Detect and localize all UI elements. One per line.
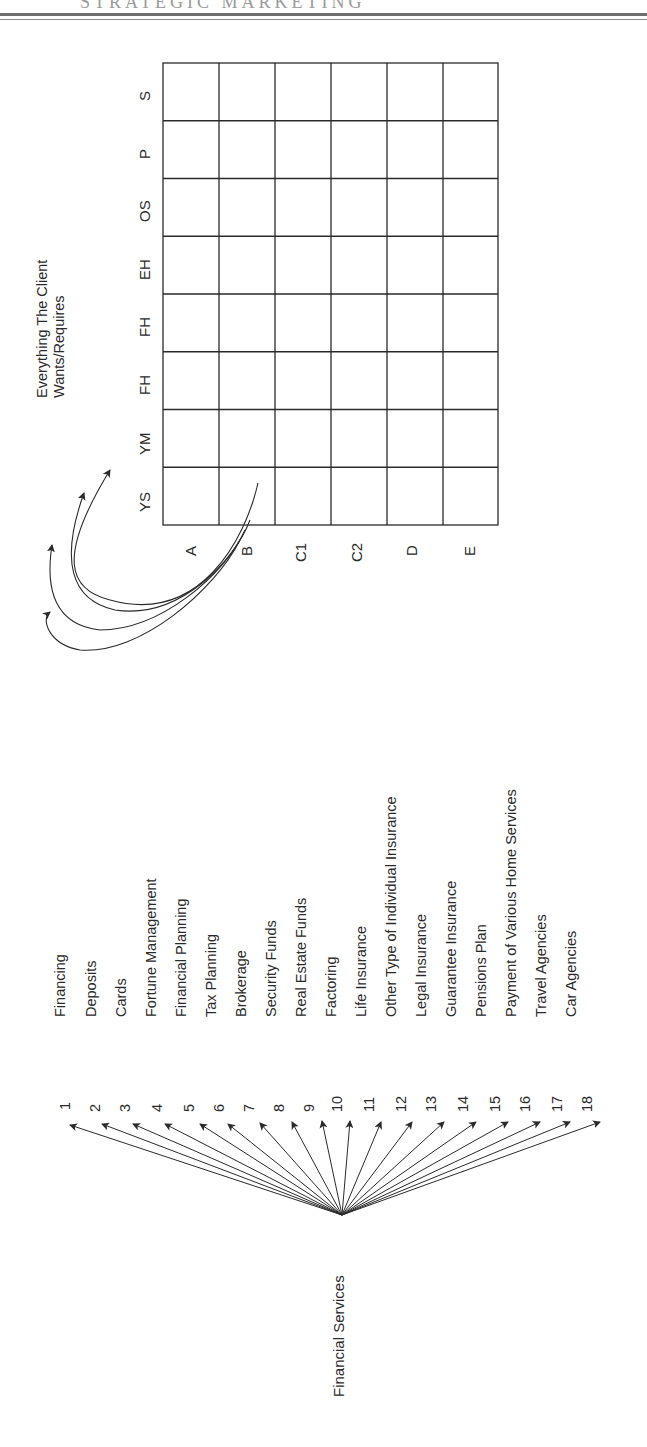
col-label-b: B <box>239 546 254 556</box>
col-label-c2: C2 <box>349 543 364 562</box>
service-label-12: Other Type of Individual Insurance <box>384 796 399 1017</box>
caption-line-2: Wants/Requires <box>51 260 68 398</box>
service-label-7: Brokerage <box>234 950 249 1017</box>
service-label-11: Life Insurance <box>354 926 369 1017</box>
service-label-16: Payment of Various Home Services <box>504 789 519 1017</box>
row-label-os: OS <box>137 200 152 222</box>
diagram-lines <box>0 0 647 1447</box>
service-number-4: 4 <box>150 1104 165 1112</box>
row-label-ym: YM <box>137 433 152 456</box>
service-label-9: Real Estate Funds <box>294 898 309 1017</box>
financial-services-root-label: Financial Services <box>331 1275 346 1397</box>
service-label-18: Car Agencies <box>564 931 579 1017</box>
service-number-9: 9 <box>302 1104 317 1112</box>
col-label-c1: C1 <box>293 543 308 562</box>
service-number-1: 1 <box>58 1102 73 1110</box>
service-number-6: 6 <box>212 1104 227 1112</box>
service-label-5: Financial Planning <box>174 899 189 1018</box>
matrix-caption: Everything The Client Wants/Requires <box>34 260 68 398</box>
service-number-15: 15 <box>488 1096 503 1112</box>
col-label-a: A <box>183 546 198 556</box>
row-label-eh: EH <box>137 259 152 280</box>
service-label-4: Fortune Management <box>144 878 159 1017</box>
service-label-17: Travel Agencies <box>534 914 549 1017</box>
service-label-6: Tax Planning <box>204 934 219 1017</box>
service-number-16: 16 <box>518 1096 533 1112</box>
col-label-e: E <box>462 546 477 556</box>
service-label-3: Cards <box>114 978 129 1017</box>
service-label-13: Legal Insurance <box>414 914 429 1017</box>
row-label-fh-1: FH <box>137 317 152 337</box>
row-label-s: S <box>137 91 152 101</box>
service-label-2: Deposits <box>84 961 99 1017</box>
service-label-14: Guarantee Insurance <box>444 881 459 1017</box>
service-number-3: 3 <box>118 1104 133 1112</box>
service-number-17: 17 <box>550 1096 565 1112</box>
col-label-d: D <box>404 545 419 556</box>
matrix-grid <box>163 63 498 525</box>
service-fan-arrows <box>70 1121 600 1215</box>
service-number-18: 18 <box>580 1096 595 1112</box>
service-number-10: 10 <box>330 1096 345 1112</box>
service-number-2: 2 <box>88 1104 103 1112</box>
service-label-1: Financing <box>53 954 68 1017</box>
row-label-p: P <box>137 149 152 159</box>
service-label-8: Security Funds <box>264 920 279 1017</box>
service-number-12: 12 <box>394 1096 409 1112</box>
service-number-8: 8 <box>272 1104 287 1112</box>
service-number-5: 5 <box>182 1104 197 1112</box>
caption-line-1: Everything The Client <box>34 260 51 398</box>
row-label-fh-2: FH <box>137 375 152 395</box>
service-label-15: Pensions Plan <box>474 924 489 1017</box>
service-label-10: Factoring <box>324 957 339 1017</box>
service-number-7: 7 <box>242 1104 257 1112</box>
service-number-13: 13 <box>424 1096 439 1112</box>
service-number-14: 14 <box>456 1096 471 1112</box>
service-number-11: 11 <box>362 1097 377 1112</box>
row-label-ys: YS <box>137 492 152 512</box>
